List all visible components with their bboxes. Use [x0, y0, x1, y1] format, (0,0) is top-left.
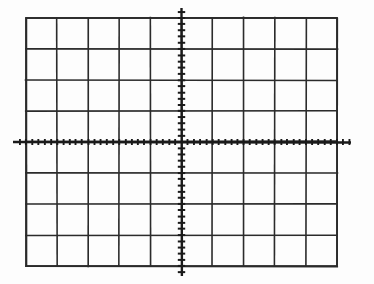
graticule-figure: Oscilloscope Graticule Scanned CRT grati… [0, 0, 374, 284]
graticule-diagram [0, 0, 374, 284]
